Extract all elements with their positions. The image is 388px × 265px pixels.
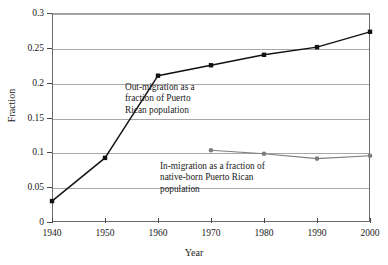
y-tick-mark xyxy=(47,118,52,119)
annotation-in-migration: In-migration as a fraction of native-bor… xyxy=(160,161,315,195)
gridline xyxy=(53,14,369,15)
y-tick-mark xyxy=(47,13,52,14)
x-tick-mark xyxy=(105,218,106,223)
y-tick-label: 0.25 xyxy=(8,43,44,53)
gridline xyxy=(53,49,369,50)
x-tick-label: 1980 xyxy=(255,228,274,238)
x-tick-mark xyxy=(264,218,265,223)
x-tick-mark xyxy=(370,218,371,223)
y-tick-label: 0.1 xyxy=(8,147,44,157)
y-tick-label: 0.05 xyxy=(8,182,44,192)
x-tick-label: 1960 xyxy=(149,228,168,238)
x-tick-mark xyxy=(211,218,212,223)
y-tick-mark xyxy=(47,83,52,84)
x-tick-mark xyxy=(52,218,53,223)
y-tick-label: 0.3 xyxy=(8,8,44,18)
migration-line-chart: 00.050.10.150.20.250.3 19401950196019701… xyxy=(0,0,388,265)
x-tick-label: 2000 xyxy=(361,228,380,238)
gridline xyxy=(53,153,369,154)
y-tick-mark xyxy=(47,187,52,188)
y-tick-mark xyxy=(47,152,52,153)
x-tick-label: 1990 xyxy=(308,228,327,238)
x-tick-mark xyxy=(158,218,159,223)
annotation-out-migration: Out-migration as a fraction of Puerto Ri… xyxy=(125,82,240,116)
x-tick-mark xyxy=(317,218,318,223)
x-tick-label: 1950 xyxy=(96,228,115,238)
y-tick-label: 0 xyxy=(8,217,44,227)
x-tick-label: 1970 xyxy=(202,228,221,238)
x-axis-title: Year xyxy=(0,247,388,258)
x-tick-label: 1940 xyxy=(43,228,62,238)
y-axis-title: Fraction xyxy=(6,71,17,141)
y-tick-mark xyxy=(47,48,52,49)
gridline xyxy=(53,119,369,120)
